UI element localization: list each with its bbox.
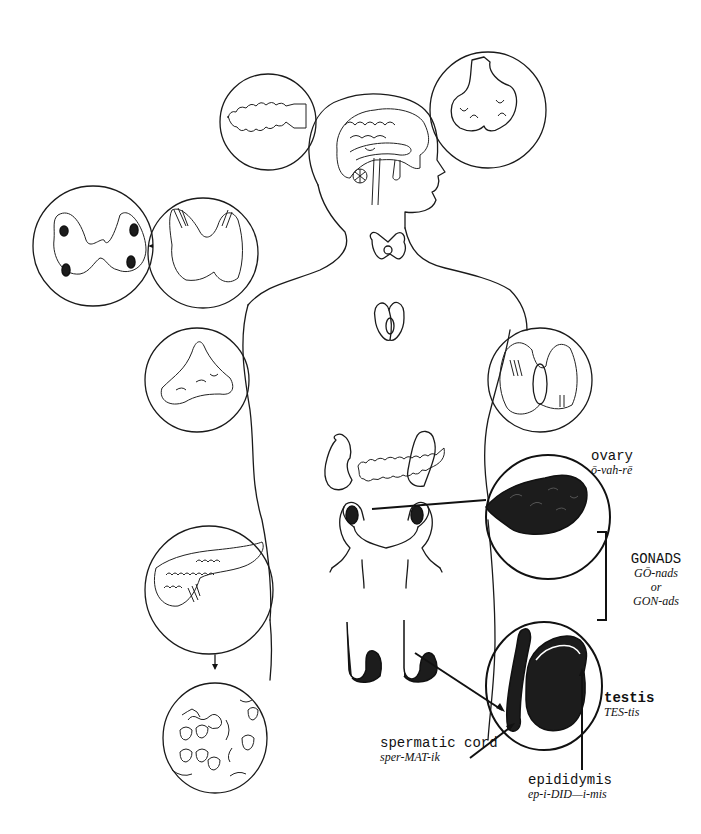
gonads-connector: or	[614, 581, 698, 595]
gonads-pronunciation-2: GON-ads	[614, 595, 698, 609]
endocrine-diagram: ovary ō-vah-rē GONADS GŌ-nads or GON-ads…	[0, 0, 701, 834]
parathyroid-circle	[488, 328, 592, 432]
ovary-term: ovary	[591, 448, 633, 464]
testis-pronunciation: TES-tis	[604, 706, 654, 720]
adrenals-pancreas-abdomen	[325, 431, 444, 489]
body-outline	[243, 94, 527, 740]
spermatic-cord-pronunciation: sper-MAT-ik	[380, 751, 498, 765]
pancreas-circle	[145, 526, 273, 670]
ovary-label: ovary ō-vah-rē	[591, 448, 633, 478]
gonads-term: GONADS	[614, 551, 698, 567]
testis-label: testis TES-tis	[604, 690, 654, 720]
epididymis-term: epididymis	[528, 772, 612, 788]
ovaries-uterus-pelvis	[330, 502, 442, 588]
thyroid-detail-circles	[33, 186, 258, 308]
testis-term: testis	[604, 690, 654, 706]
epididymis-pronunciation: ep-i-DID—i-mis	[528, 788, 612, 802]
pituitary-circle	[430, 52, 546, 168]
islets-circle	[163, 683, 267, 793]
diagram-artwork	[0, 0, 701, 834]
thyroid-neck	[370, 233, 405, 259]
gonads-bracket	[597, 532, 606, 620]
gonads-label: GONADS GŌ-nads or GON-ads	[614, 551, 698, 608]
ovary-pronunciation: ō-vah-rē	[591, 464, 633, 478]
thymus-chest	[375, 302, 404, 340]
brain-illustration	[337, 109, 429, 205]
spermatic-cord-label: spermatic cord sper-MAT-ik	[380, 735, 498, 765]
spermatic-cord-term: spermatic cord	[380, 735, 498, 751]
pineal-circle	[220, 74, 316, 170]
adrenal-circle	[145, 328, 249, 432]
gonads-pronunciation-1: GŌ-nads	[614, 567, 698, 581]
testes-illustration	[347, 620, 437, 682]
epididymis-label: epididymis ep-i-DID—i-mis	[528, 772, 612, 802]
